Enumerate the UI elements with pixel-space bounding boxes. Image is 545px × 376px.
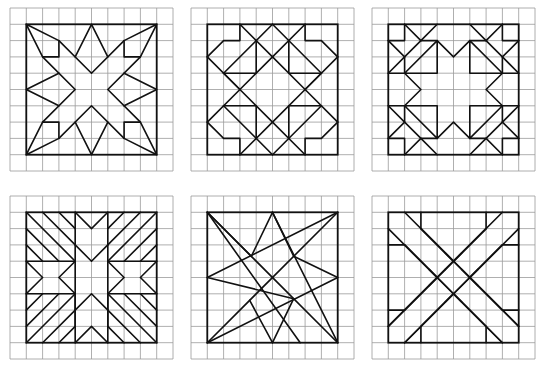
pattern-line xyxy=(405,41,421,57)
pattern-panel-interlaced-star xyxy=(191,196,354,359)
pattern-line xyxy=(470,278,478,286)
grid-lines xyxy=(191,8,354,171)
pattern-line xyxy=(502,138,518,154)
pattern-line xyxy=(388,24,404,40)
pattern-line xyxy=(486,122,502,138)
pattern-line xyxy=(59,212,75,228)
pattern-line xyxy=(454,253,462,261)
grid-lines xyxy=(10,8,173,171)
pattern-line xyxy=(26,245,42,261)
pattern-line xyxy=(305,73,321,89)
grid-lines xyxy=(372,196,535,359)
pattern-line xyxy=(224,73,240,89)
pattern-line xyxy=(502,24,518,40)
pattern-line xyxy=(388,138,404,154)
pattern-line xyxy=(250,300,273,342)
pattern-line xyxy=(405,122,421,138)
pattern-panel-double-x xyxy=(372,196,535,359)
pattern-line xyxy=(273,212,294,256)
pattern-line xyxy=(108,212,124,228)
pattern-line xyxy=(429,278,437,286)
pattern-line xyxy=(207,278,293,299)
pattern-panel-striped-cross xyxy=(10,196,173,359)
grid-lines xyxy=(372,8,535,171)
pattern-panel-star-ring xyxy=(372,8,535,171)
pattern-line xyxy=(59,326,75,342)
pattern-line xyxy=(207,212,251,256)
pattern-line xyxy=(26,294,42,310)
pattern-line xyxy=(108,326,124,342)
pattern-panel-eight-point-star xyxy=(10,8,173,171)
quilt-pattern-figure xyxy=(0,0,545,376)
pattern-line xyxy=(140,294,156,310)
pattern-line xyxy=(486,41,502,57)
pattern-line xyxy=(140,245,156,261)
pattern-panel-ohio-star-variant xyxy=(191,8,354,171)
